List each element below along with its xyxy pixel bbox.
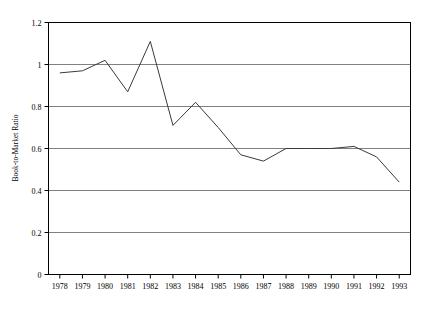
data-series-line — [60, 41, 399, 182]
x-tick-label: 1980 — [97, 282, 113, 291]
x-tick-label: 1986 — [233, 282, 249, 291]
x-tick-label: 1982 — [142, 282, 158, 291]
x-axis-ticks: 1978197919801981198219831984198519861987… — [52, 275, 407, 291]
x-tick-label: 1978 — [52, 282, 68, 291]
x-tick-label: 1988 — [278, 282, 294, 291]
y-tick-label: 0.8 — [32, 103, 42, 112]
y-tick-label: 0 — [38, 271, 42, 280]
x-tick-label: 1993 — [391, 282, 407, 291]
y-tick-label: 0.4 — [32, 187, 42, 196]
y-tick-label: 0.2 — [32, 229, 42, 238]
x-tick-label: 1992 — [369, 282, 385, 291]
x-tick-label: 1979 — [74, 282, 90, 291]
line-chart: 00.20.40.60.811.2 1978197919801981198219… — [0, 0, 434, 309]
x-tick-label: 1981 — [120, 282, 136, 291]
x-tick-label: 1990 — [323, 282, 339, 291]
y-axis-ticks: 00.20.40.60.811.2 — [32, 19, 49, 280]
chart-figure: 00.20.40.60.811.2 1978197919801981198219… — [0, 0, 434, 309]
gridlines — [49, 65, 411, 233]
x-tick-label: 1985 — [210, 282, 226, 291]
y-axis-label: Book-to-Market Ratio — [11, 114, 20, 181]
x-tick-label: 1989 — [301, 282, 317, 291]
x-tick-label: 1987 — [255, 282, 271, 291]
x-tick-label: 1983 — [165, 282, 181, 291]
y-tick-label: 1 — [38, 61, 42, 70]
x-tick-label: 1991 — [346, 282, 362, 291]
y-tick-label: 1.2 — [32, 19, 42, 28]
x-tick-label: 1984 — [188, 282, 204, 291]
y-tick-label: 0.6 — [32, 145, 42, 154]
